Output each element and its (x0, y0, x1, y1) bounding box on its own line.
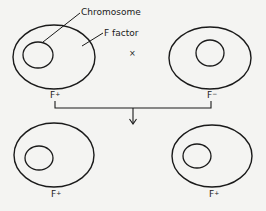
chromosome-label: Chromosome (81, 7, 141, 17)
cell-top-left (13, 25, 95, 89)
cell-outer-membrane (172, 125, 252, 187)
cell-top-right (169, 27, 251, 89)
label-top-left: F+ (50, 90, 60, 100)
genotype-sup: + (55, 90, 60, 97)
cell-bottom-right (172, 125, 252, 187)
f-factor-label: F factor (104, 28, 138, 38)
chromosome-ring (196, 40, 224, 66)
chromosome-leader-line (43, 13, 80, 42)
cell-outer-membrane (169, 27, 251, 89)
chromosome-ring (23, 42, 53, 68)
chromosome-ring (25, 146, 53, 170)
cell-bottom-left (14, 123, 94, 187)
chromosome-ring (183, 144, 211, 168)
f-factor-leader-line (82, 33, 103, 46)
cell-outer-membrane (13, 25, 95, 89)
genotype-sup: − (212, 90, 217, 97)
label-top-right: F− (207, 90, 217, 100)
label-bottom-left: F+ (51, 189, 61, 199)
cross-symbol: × (129, 49, 136, 59)
genotype-sup: + (56, 189, 61, 196)
label-bottom-right: F+ (209, 189, 219, 199)
mating-bracket (55, 101, 211, 108)
genotype-sup: + (214, 189, 219, 196)
